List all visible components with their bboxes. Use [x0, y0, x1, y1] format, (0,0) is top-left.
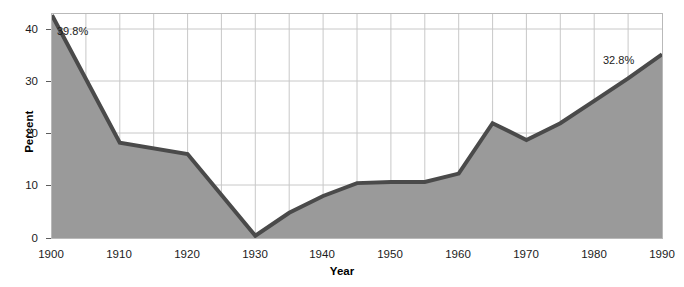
plot-area [51, 13, 663, 239]
y-tick-label-40: 40 [8, 24, 38, 36]
y-tick-label-30: 30 [8, 76, 38, 88]
x-tick-label-1980: 1980 [564, 249, 624, 261]
y-tick-label-10: 10 [8, 180, 38, 192]
plot-canvas [52, 14, 662, 238]
x-tick-label-1910: 1910 [89, 249, 149, 261]
y-tick-label-20: 20 [8, 128, 38, 140]
x-tick-label-1940: 1940 [292, 249, 352, 261]
x-tick-label-1900: 1900 [21, 249, 81, 261]
x-tick-label-1970: 1970 [496, 249, 556, 261]
x-tick-label-1920: 1920 [157, 249, 217, 261]
x-tick-label-1930: 1930 [225, 249, 285, 261]
area-chart: Percent 40 30 20 10 0 [0, 0, 684, 287]
y-tick-label-0: 0 [8, 233, 38, 245]
x-tick-label-1990: 1990 [632, 249, 684, 261]
x-tick-label-1950: 1950 [360, 249, 420, 261]
x-axis-title: Year [0, 266, 684, 278]
annotation-start-value: 39.8% [57, 26, 88, 37]
x-tick-label-1960: 1960 [428, 249, 488, 261]
annotation-end-value: 32.8% [603, 55, 634, 66]
